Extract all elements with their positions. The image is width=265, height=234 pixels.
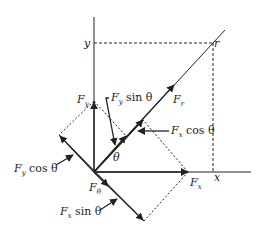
fx-sin-annotation: Fx sin θ: [60, 206, 101, 220]
fy-cos-leader: [56, 155, 73, 165]
ftheta-label: Fθ: [89, 182, 101, 196]
vector-diagram: y x r θ Fy Fx Fr Fθ Fy sin θ Fx cos θ Fy…: [0, 0, 265, 234]
y-axis-label: y: [84, 38, 90, 49]
fx-cos-annotation: Fx cos θ: [171, 125, 215, 139]
fy-sin-annotation: Fy sin θ: [111, 92, 152, 106]
x-axis-label: x: [214, 172, 220, 183]
fr-label: Fr: [173, 94, 184, 108]
fx-sin-leader: [100, 199, 117, 210]
fx-label: Fx: [190, 177, 202, 191]
fx-dashed-2: [144, 172, 188, 221]
theta-label: θ: [113, 152, 120, 163]
fy-label: Fy: [77, 94, 89, 108]
fy-cos-arrow: [60, 136, 94, 172]
fy-cos-annotation: Fy cos θ: [14, 163, 58, 177]
r-label: r: [214, 38, 219, 49]
diagram-canvas: [0, 0, 265, 234]
